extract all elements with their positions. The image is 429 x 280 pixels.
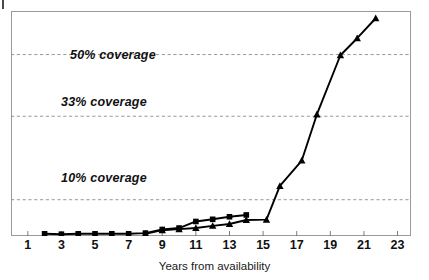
marker-square-series-4: [75, 231, 81, 236]
series-line-triangle-series: [145, 18, 375, 234]
marker-square-series-7: [126, 231, 132, 236]
x-tick-label-1: 1: [16, 238, 40, 252]
marker-triangle-series-18.2: [313, 111, 320, 118]
x-axis-title: Years from availability: [0, 260, 429, 272]
x-tick-label-19: 19: [318, 238, 342, 252]
marker-square-series-3: [59, 231, 65, 236]
x-tick-label-5: 5: [83, 238, 107, 252]
x-tick-label-11: 11: [184, 238, 208, 252]
marker-square-series-13: [227, 214, 233, 220]
x-tick-label-23: 23: [386, 238, 410, 252]
x-tick-label-15: 15: [251, 238, 275, 252]
page-edge-artifact: [2, 0, 4, 9]
x-tick-label-7: 7: [117, 238, 141, 252]
plot-canvas: [11, 11, 411, 236]
gridline-label-33: 33% coverage: [61, 95, 147, 109]
gridline-label-10: 10% coverage: [61, 171, 147, 185]
x-axis-tick-labels: 1357911131517192123: [0, 238, 429, 254]
gridline-label-50: 50% coverage: [70, 48, 156, 62]
x-tick-label-3: 3: [49, 238, 73, 252]
x-tick-label-21: 21: [352, 238, 376, 252]
marker-square-series-5: [92, 231, 98, 236]
marker-triangle-series-17.3: [298, 157, 305, 164]
marker-square-series-2: [42, 231, 48, 236]
chart-figure: 50% coverage 33% coverage 10% coverage 1…: [0, 0, 429, 280]
marker-square-series-6: [109, 231, 115, 236]
x-tick-label-17: 17: [285, 238, 309, 252]
x-tick-label-13: 13: [217, 238, 241, 252]
marker-square-series-11: [193, 219, 199, 225]
x-tick-label-9: 9: [150, 238, 174, 252]
marker-square-series-12: [210, 217, 216, 223]
marker-triangle-series-21.7: [372, 15, 379, 22]
